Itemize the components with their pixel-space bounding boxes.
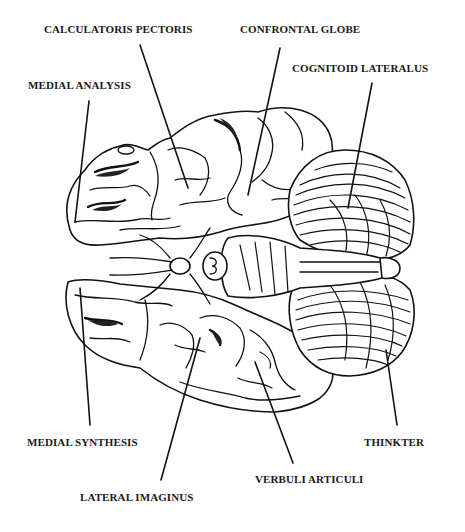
label-thinkter: THINKTER — [364, 437, 424, 448]
label-verbuli-articuli: VERBULI ARTICULI — [255, 474, 364, 485]
label-confrontal-globe: CONFRONTAL GLOBE — [240, 24, 360, 35]
label-lateral-imaginus: LATERAL IMAGINUS — [80, 492, 194, 503]
cerebellum-upper — [288, 150, 413, 260]
label-calculatoris-pectoris: CALCULATORIS PECTORIS — [44, 24, 193, 35]
label-cognitoid-lateralus: COGNITOID LATERALUS — [292, 63, 428, 74]
label-medial-synthesis: MEDIAL SYNTHESIS — [27, 437, 138, 448]
label-medial-analysis: MEDIAL ANALYSIS — [28, 80, 131, 91]
